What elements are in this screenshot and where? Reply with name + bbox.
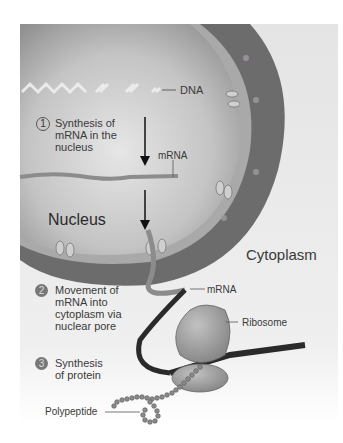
- step-1-badge: 1: [36, 117, 50, 131]
- dna-label: DNA: [180, 84, 203, 96]
- step-1-text: Synthesis of mRNA in the nucleus: [55, 117, 117, 153]
- cytoplasm-label: Cytoplasm: [246, 246, 317, 263]
- ribosome-label: Ribosome: [242, 317, 287, 329]
- step-1-line: Synthesis of: [55, 117, 117, 129]
- step-2-line: Movement of: [55, 284, 122, 296]
- step-1-line: mRNA in the: [55, 129, 117, 141]
- step-2-line: cytoplasm via: [55, 308, 122, 320]
- step-3-badge: 3: [35, 357, 48, 370]
- mrna-nucleus-label: mRNA: [158, 150, 187, 162]
- polypeptide-label: Polypeptide: [45, 406, 97, 418]
- step-2-line: nuclear pore: [55, 320, 122, 332]
- step-3-line: of protein: [55, 369, 103, 381]
- step-2-badge: 2: [35, 284, 48, 297]
- step-1-line: nucleus: [55, 141, 117, 153]
- nucleus-label: Nucleus: [48, 211, 106, 229]
- step-3-text: Synthesis of protein: [55, 357, 103, 381]
- step-2-line: mRNA into: [55, 296, 122, 308]
- step-2-text: Movement of mRNA into cytoplasm via nucl…: [55, 284, 122, 332]
- step-3-line: Synthesis: [55, 357, 103, 369]
- mrna-cytoplasm-label: mRNA: [207, 284, 236, 296]
